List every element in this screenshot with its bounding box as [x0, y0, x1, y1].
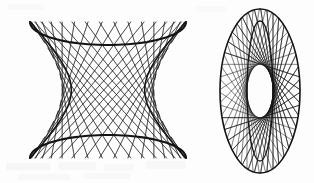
hyperboloid-figure-plate: Hyperboloid of one sheet rendered as a r… [0, 0, 314, 183]
ruling-line [128, 22, 156, 106]
ruling-line [128, 74, 156, 158]
ruling-line [62, 85, 74, 158]
ruling-line [141, 22, 153, 95]
outer-rim-ellipse [220, 9, 300, 173]
side-view-ruling-family-b [31, 22, 185, 158]
scan-smudge [6, 163, 50, 170]
scan-smudge [58, 162, 96, 170]
ruling-line [56, 22, 102, 116]
ruled-surface-canvas [0, 0, 314, 183]
scan-smudge [8, 4, 44, 10]
ruling-line [51, 100, 61, 158]
scan-smudge [104, 164, 134, 171]
scan-smudge [146, 161, 186, 169]
ruling-line [60, 74, 88, 158]
ruling-line [60, 22, 88, 106]
ruling-line [141, 85, 153, 158]
ruling-line [62, 22, 74, 95]
hyperboloid-side-view [30, 22, 186, 158]
scan-smudge [196, 6, 226, 12]
ruling-line [114, 64, 160, 158]
side-view-ruling-family-a [31, 22, 185, 158]
throat-ellipse [247, 21, 273, 161]
hyperboloid-axial-view [220, 9, 300, 173]
scan-smudge [18, 174, 70, 180]
ruling-line [155, 100, 165, 158]
scan-smudge [84, 173, 130, 179]
